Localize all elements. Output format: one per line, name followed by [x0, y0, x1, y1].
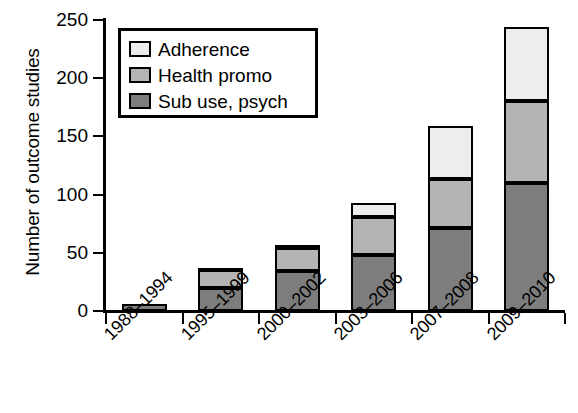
y-axis-tick	[93, 135, 104, 137]
bar-stack	[504, 0, 549, 311]
legend-swatch-health-promo-icon	[129, 67, 151, 83]
bar-segment-adherence	[504, 27, 549, 101]
bar-segment-health-promo	[275, 248, 320, 271]
bar-segment-adherence	[275, 245, 320, 249]
y-axis-tick	[93, 252, 104, 254]
bar-segment-health-promo	[351, 217, 396, 255]
y-axis-tick-label: 0	[28, 301, 88, 320]
y-axis-tick-label: 50	[28, 243, 88, 262]
y-axis-tick	[93, 77, 104, 79]
legend-swatch-adherence-icon	[129, 41, 151, 57]
y-axis-tick-label: 100	[28, 185, 88, 204]
legend-item-health-promo: Health promo	[129, 62, 315, 88]
bar-segment-health-promo	[504, 101, 549, 182]
legend: Adherence Health promo Sub use, psych	[118, 28, 318, 118]
legend-swatch-sub-use-psych-icon	[129, 93, 151, 109]
bar-segment-health-promo	[428, 179, 473, 228]
y-axis-tick	[93, 194, 104, 196]
y-axis-tick-label: 200	[28, 68, 88, 87]
bar-stack	[351, 0, 396, 311]
y-axis-tick-label: 150	[28, 126, 88, 145]
legend-item-sub-use-psych: Sub use, psych	[129, 88, 315, 114]
y-axis-line	[103, 18, 106, 313]
y-axis-tick-label: 250	[28, 10, 88, 29]
legend-label-sub-use-psych: Sub use, psych	[158, 92, 288, 111]
y-axis-tick	[93, 19, 104, 21]
bar-stack	[428, 0, 473, 311]
legend-label-health-promo: Health promo	[158, 66, 272, 85]
y-axis-title: Number of outcome studies	[22, 12, 44, 312]
legend-label-adherence: Adherence	[158, 40, 250, 59]
x-axis-tick	[564, 313, 566, 324]
y-axis-tick	[93, 310, 104, 312]
bar-segment-adherence	[351, 203, 396, 217]
stacked-bar-chart: Number of outcome studies 05010015020025…	[0, 0, 578, 413]
legend-item-adherence: Adherence	[129, 36, 315, 62]
bar-segment-adherence	[428, 126, 473, 180]
